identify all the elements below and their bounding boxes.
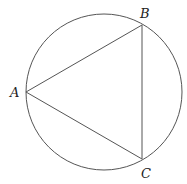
label-b: B	[139, 6, 150, 21]
label-a: A	[9, 85, 19, 100]
geometry-diagram: A B C	[0, 0, 187, 184]
circumcircle	[26, 14, 182, 170]
triangle-abc	[26, 25, 142, 159]
label-c: C	[141, 166, 151, 181]
